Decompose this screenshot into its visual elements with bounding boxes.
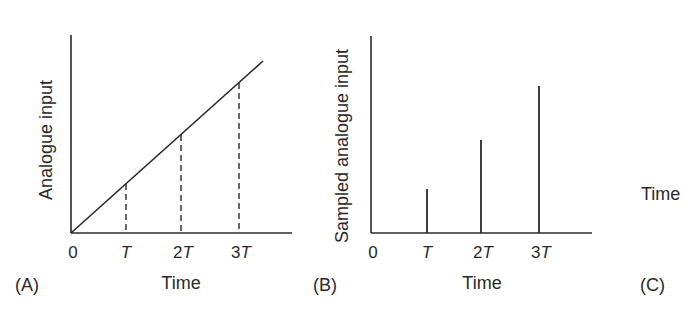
b-tick-0: 0 — [368, 243, 377, 262]
b-tick-3T: 3T — [531, 243, 552, 262]
panel-c: Time (C) — [640, 184, 680, 295]
c-panel-label: (C) — [640, 275, 665, 295]
a-tick-3T: 3T — [231, 243, 252, 262]
c-x-axis-title: Time — [641, 184, 680, 204]
a-tick-2T: 2T — [173, 243, 194, 262]
panel-a: 0 T 2T 3T Time Analogue input (A) — [15, 35, 292, 295]
a-x-axis-title: Time — [161, 273, 200, 293]
a-tick-T: T — [121, 243, 133, 262]
b-tick-2T: 2T — [473, 243, 494, 262]
b-panel-label: (B) — [313, 275, 337, 295]
panel-b: 0 T 2T 3T Time Sampled analogue input (B… — [313, 36, 592, 295]
b-tick-T: T — [422, 243, 434, 262]
b-x-axis-title: Time — [462, 273, 501, 293]
a-y-axis-title: Analogue input — [36, 80, 56, 200]
b-y-axis-title: Sampled analogue input — [332, 49, 352, 243]
a-panel-label: (A) — [15, 275, 39, 295]
figure-canvas: 0 T 2T 3T Time Analogue input (A) 0 T 2T… — [0, 0, 689, 331]
a-ramp-line — [71, 61, 263, 233]
a-tick-0: 0 — [68, 243, 77, 262]
